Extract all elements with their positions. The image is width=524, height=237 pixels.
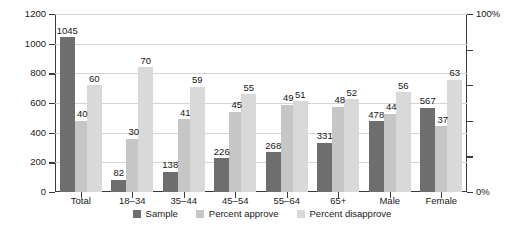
legend-swatch-percent-disapprove [297, 210, 305, 218]
x-axis-label: 45–54 [210, 196, 262, 206]
bar-sample [266, 152, 281, 192]
y-axis-right-tick-label: 100% [476, 9, 500, 19]
y-axis-left-tick-label: 1200 [25, 9, 46, 19]
y-axis-left-tick-label: 200 [30, 158, 46, 168]
bar-disapprove [344, 99, 359, 192]
bar-value-label: 45 [224, 100, 249, 110]
bar-value-label: 52 [339, 88, 364, 98]
y-axis-right-tick [467, 156, 473, 157]
bar-value-label: 268 [261, 141, 286, 151]
bar-value-label: 37 [430, 115, 455, 125]
bar-group: 2684951 [261, 14, 313, 192]
legend-label-percent-disapprove: Percent disapprove [310, 209, 392, 219]
bar-value-label: 63 [442, 68, 467, 78]
x-axis-label: Male [364, 196, 416, 206]
bar-group: 823070 [107, 14, 159, 192]
bar-value-label: 55 [236, 83, 261, 93]
y-axis-left-tick-label: 1000 [25, 39, 46, 49]
bar-value-label: 70 [133, 56, 158, 66]
bar-sample [369, 121, 384, 192]
bar-group: 5673763 [416, 14, 468, 192]
x-axis-label: 55–64 [261, 196, 313, 206]
legend-item-sample: Sample [133, 209, 178, 219]
x-axis-label: 35–44 [158, 196, 210, 206]
y-axis-right-tick-label: 0% [476, 187, 490, 197]
bar-group: 10454060 [55, 14, 107, 192]
y-axis-left-tick-label: 400 [30, 128, 46, 138]
x-axis-label: 65+ [313, 196, 365, 206]
legend-swatch-percent-approve [196, 210, 204, 218]
y-axis-right-tick [467, 85, 473, 86]
bar-value-label: 567 [415, 96, 440, 106]
bar-group: 2264555 [210, 14, 262, 192]
bar-disapprove [293, 101, 308, 192]
bar-disapprove [190, 87, 205, 192]
y-axis-right-tick [467, 14, 473, 15]
y-axis-right-tick [467, 121, 473, 122]
bar-value-label: 331 [312, 131, 337, 141]
x-axis-label: Female [416, 196, 468, 206]
chart-legend: Sample Percent approve Percent disapprov… [0, 209, 524, 219]
bar-chart: 020040060080010001200 0%100% 10454060823… [0, 0, 524, 237]
bar-value-label: 59 [185, 75, 210, 85]
y-axis-left-tick-label: 0 [41, 187, 46, 197]
y-axis-left-tick-label: 800 [30, 69, 46, 79]
bar-sample [214, 158, 229, 192]
y-axis-left-tick-label: 600 [30, 98, 46, 108]
x-axis-label: Total [55, 196, 107, 206]
bar-sample [317, 143, 332, 192]
bar-value-label: 82 [106, 168, 131, 178]
y-axis-right-tick [467, 192, 473, 193]
legend-label-percent-approve: Percent approve [209, 209, 279, 219]
bar-group: 3314852 [313, 14, 365, 192]
bar-value-label: 51 [288, 90, 313, 100]
bar-value-label: 44 [379, 102, 404, 112]
bar-disapprove [87, 85, 102, 192]
legend-item-percent-approve: Percent approve [196, 209, 279, 219]
bar-value-label: 56 [391, 81, 416, 91]
bar-value-label: 60 [82, 74, 107, 84]
legend-item-percent-disapprove: Percent disapprove [297, 209, 392, 219]
x-axis-label: 18–34 [107, 196, 159, 206]
y-axis-right-tick [467, 50, 473, 51]
bar-value-label: 138 [158, 160, 183, 170]
bar-group: 4784456 [364, 14, 416, 192]
plot-area: 020040060080010001200 0%100% 10454060823… [55, 14, 467, 192]
bar-group: 1384159 [158, 14, 210, 192]
bar-value-label: 30 [121, 127, 146, 137]
legend-swatch-sample [133, 210, 141, 218]
bar-value-label: 41 [173, 108, 198, 118]
bar-sample [163, 172, 178, 192]
bar-value-label: 1045 [55, 26, 80, 36]
legend-label-sample: Sample [146, 209, 178, 219]
bar-value-label: 40 [70, 109, 95, 119]
bar-disapprove [447, 80, 462, 192]
bar-value-label: 226 [209, 147, 234, 157]
bar-sample [111, 180, 126, 192]
y-axis-left-tick [49, 192, 55, 193]
